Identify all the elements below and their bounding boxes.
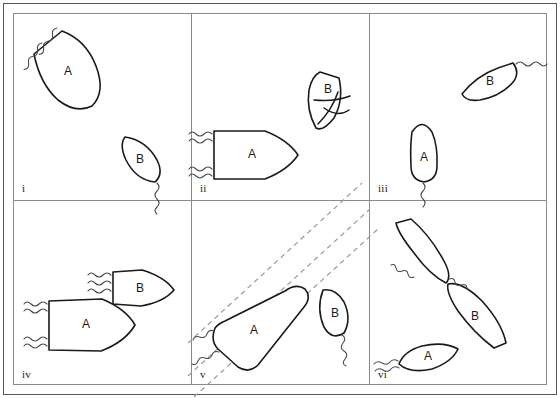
channel-lines	[188, 183, 378, 397]
panel-i-drawing: A B	[14, 14, 191, 200]
panel-iii-drawing: A B	[370, 14, 548, 200]
boat-b-wake	[88, 273, 111, 293]
panel-v-drawing: A B	[192, 201, 369, 386]
boat-situations-figure: A B i A	[0, 0, 560, 398]
boat-b: B	[462, 63, 517, 100]
boat-b-label: B	[136, 281, 144, 295]
boat-b: B	[122, 137, 160, 182]
boat-a-label: A	[420, 150, 428, 164]
boat-b-label: B	[471, 309, 479, 323]
boat-a-wake	[24, 302, 47, 348]
boat-b: B	[320, 290, 348, 336]
boat-a: A	[34, 31, 100, 109]
boat-a-label: A	[64, 64, 72, 78]
boat-a-label: A	[82, 317, 90, 331]
boat-b-label: B	[324, 82, 332, 96]
boat-b: B	[448, 284, 506, 348]
boat-a: A	[399, 344, 458, 371]
boat-b-wake	[341, 335, 347, 366]
boat-a: A	[49, 299, 135, 351]
boat-b-label: B	[486, 74, 494, 88]
panel-vi-drawing: B A	[370, 201, 548, 386]
boat-b-label: B	[331, 306, 339, 320]
panel-numeral-v: v	[200, 368, 206, 380]
boat-a-label: A	[250, 323, 258, 337]
panel-numeral-i: i	[22, 182, 25, 194]
panel-grid: A B i A	[13, 13, 547, 385]
panel-numeral-ii: ii	[200, 182, 207, 194]
panel-v: A B v	[192, 201, 369, 386]
panel-numeral-vi: vi	[378, 368, 387, 380]
boat-a-label: A	[424, 349, 432, 363]
panel-iv: A B iv	[14, 201, 191, 386]
boat-unlabeled	[396, 219, 449, 283]
panel-vi: B A vi	[370, 201, 548, 386]
boat-a-label: A	[248, 147, 256, 161]
boat-b-wake	[516, 62, 547, 66]
boat-a: A	[411, 125, 437, 183]
panel-iii: A B iii	[370, 14, 548, 200]
boat-b: B	[113, 270, 174, 306]
panel-iv-drawing: A B	[14, 201, 191, 386]
boat-b-label: B	[136, 152, 144, 166]
panel-numeral-iv: iv	[22, 368, 31, 380]
panel-i: A B i	[14, 14, 191, 200]
panel-ii-drawing: A B	[192, 14, 369, 200]
boat-a: A	[213, 286, 308, 370]
boat-a-wake	[189, 132, 212, 178]
panel-numeral-iii: iii	[378, 182, 388, 194]
panel-ii: A B ii	[192, 14, 369, 200]
boat-a: A	[214, 131, 298, 179]
